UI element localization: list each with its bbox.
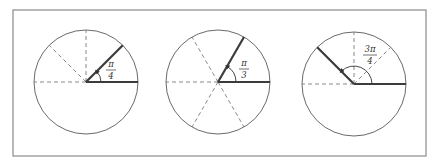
angle-diagram: π 4 π 3 3π 4 <box>0 0 437 162</box>
angle-arc <box>97 71 101 82</box>
label-denominator: 3 <box>241 70 246 80</box>
terminal-side <box>218 37 244 82</box>
angle-arc <box>227 66 236 82</box>
dashed-radius-240 <box>192 82 218 127</box>
angle-label: π 3 <box>239 58 249 80</box>
label-denominator: 4 <box>366 56 372 66</box>
panel-pi-over-3: π 3 <box>166 30 270 134</box>
panel-3pi-over-4: 3π 4 <box>302 32 406 136</box>
panel-pi-over-4: π 4 <box>34 30 138 134</box>
terminal-side <box>317 47 354 84</box>
terminal-side <box>86 45 123 82</box>
label-numerator: π <box>107 59 114 69</box>
angle-label: π 4 <box>106 59 116 81</box>
label-numerator: 3π <box>365 44 376 54</box>
dashed-radius-300 <box>218 82 244 127</box>
label-numerator: π <box>240 58 247 68</box>
dashed-radius-135 <box>49 45 86 82</box>
dashed-radius-120 <box>192 37 218 82</box>
label-denominator: 4 <box>107 71 113 81</box>
